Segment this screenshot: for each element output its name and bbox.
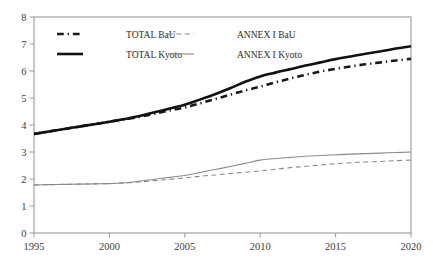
x-tick-label-2020: 2020 xyxy=(401,241,422,252)
y-tick-label-7: 7 xyxy=(21,39,26,50)
y-tick-label-4: 4 xyxy=(21,120,27,131)
y-tick-label-1: 1 xyxy=(21,201,26,212)
x-tick-label-2005: 2005 xyxy=(174,241,195,252)
x-tick-label-2010: 2010 xyxy=(250,241,271,252)
x-tick-label-2000: 2000 xyxy=(99,241,120,252)
x-tick-label-2015: 2015 xyxy=(325,241,346,252)
y-tick-label-5: 5 xyxy=(21,93,26,104)
legend-label-1: ANNEX I BaU xyxy=(237,30,296,40)
x-tick-label-1995: 1995 xyxy=(24,241,45,252)
y-tick-label-3: 3 xyxy=(21,147,26,158)
legend-label-0: TOTAL BaU xyxy=(126,30,176,40)
y-tick-label-6: 6 xyxy=(21,66,26,77)
legend-label-2: TOTAL Kyoto xyxy=(126,50,182,60)
y-tick-label-0: 0 xyxy=(21,228,26,239)
y-tick-label-8: 8 xyxy=(21,12,26,23)
legend-label-3: ANNEX I Kyoto xyxy=(237,50,302,60)
chart-canvas: 012345678199520002005201020152020TOTAL B… xyxy=(0,0,433,268)
line-chart: 012345678199520002005201020152020TOTAL B… xyxy=(0,0,433,268)
y-tick-label-2: 2 xyxy=(21,174,26,185)
